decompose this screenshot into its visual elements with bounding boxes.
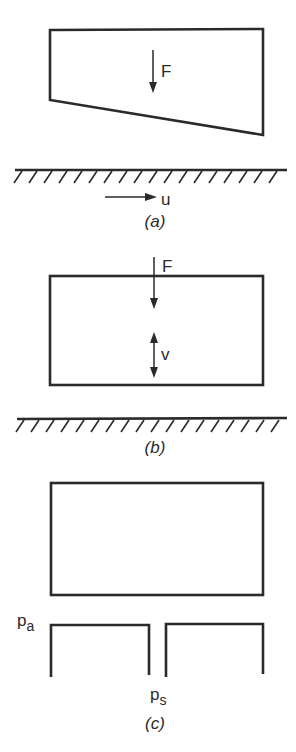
caption-b: (b) (145, 438, 166, 457)
arrowhead-down-icon (149, 82, 157, 93)
velocity-label-v: v (161, 345, 170, 364)
bearing-pad-left (51, 625, 149, 677)
ambient-pressure-label: pa (17, 611, 34, 634)
caption-a: (a) (145, 212, 166, 231)
force-label-b: F (162, 257, 172, 276)
force-arrow-b (150, 257, 158, 309)
arrowhead-down-icon (150, 298, 158, 309)
panel-b: F v (16, 257, 287, 457)
velocity-arrow-u (105, 193, 157, 201)
bearing-pad-right (166, 624, 263, 677)
velocity-label-u: u (161, 190, 170, 209)
arrowhead-right-icon (145, 193, 157, 201)
force-arrow-a (149, 50, 157, 93)
arrowhead-up-icon (150, 332, 158, 343)
supply-pressure-label: ps (150, 685, 166, 708)
panel-c: pa ps (c) (17, 483, 263, 733)
panel-a: F (14, 29, 287, 231)
velocity-double-arrow-v (150, 332, 158, 378)
caption-c: (c) (145, 714, 165, 733)
ground-surface-a (14, 170, 287, 183)
force-label-a: F (161, 62, 171, 81)
arrowhead-down-icon (150, 367, 158, 378)
bearing-runner-block (51, 483, 263, 595)
bearing-diagram: F (0, 0, 296, 752)
ground-surface-b (16, 418, 287, 432)
